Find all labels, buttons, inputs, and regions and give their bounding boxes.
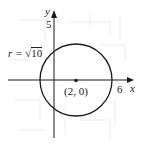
center-point [74,79,78,83]
diagram-canvas [0,0,141,146]
y-tick-label: 5 [46,19,52,30]
faint-background-grid [10,10,125,140]
x-tick-label: 6 [117,84,123,95]
circle-diagram: y 5 6 x (2, 0) r = √10 [0,0,141,146]
y-axis-arrow-icon [51,10,57,18]
radius-radicand: 10 [31,47,42,59]
radius-label: r = √10 [8,47,42,59]
radius-prefix: r = [8,47,25,59]
center-label: (2, 0) [64,86,88,97]
y-axis-label: y [45,6,50,17]
x-axis-label: x [130,83,135,94]
